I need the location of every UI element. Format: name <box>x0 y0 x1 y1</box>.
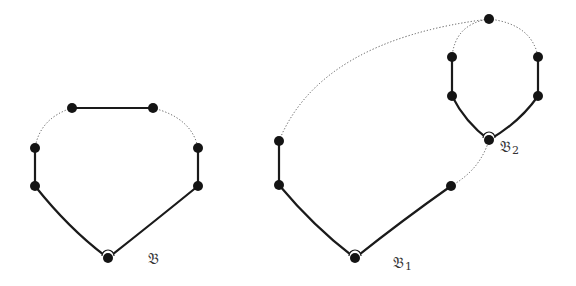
graph-label: 𝔅 <box>148 250 159 268</box>
solid-edge <box>108 186 198 258</box>
graph-label-subscript: 1 <box>405 260 412 273</box>
graph-node <box>67 103 77 113</box>
graph-node <box>30 143 40 153</box>
dotted-edge <box>279 19 489 141</box>
graph-node <box>350 253 360 263</box>
graph-node <box>447 52 457 62</box>
graph-node <box>447 91 457 101</box>
solid-edge <box>355 186 451 258</box>
dotted-edge <box>35 108 72 148</box>
graph-node <box>148 103 158 113</box>
dotted-edge <box>153 108 198 148</box>
graph-node <box>193 143 203 153</box>
solid-edge <box>279 185 355 258</box>
graph-node <box>274 180 284 190</box>
graph-label: 𝔅 <box>393 254 404 272</box>
graph-B: 𝔅 <box>30 103 203 268</box>
graphs-layer: 𝔅𝔅1𝔅2 <box>30 14 543 273</box>
dotted-edge <box>451 140 489 186</box>
graph-node <box>193 181 203 191</box>
graph-node <box>274 136 284 146</box>
graph-label: 𝔅 <box>500 138 511 156</box>
graph-B2: 𝔅2 <box>447 14 543 157</box>
solid-edge <box>35 186 108 258</box>
dotted-edge <box>489 19 538 57</box>
dotted-edge <box>452 19 489 57</box>
graph-node <box>533 91 543 101</box>
graph-diagram: 𝔅𝔅1𝔅2 <box>0 0 576 286</box>
graph-node <box>533 52 543 62</box>
solid-edge <box>452 96 489 140</box>
graph-node <box>446 181 456 191</box>
graph-label-subscript: 2 <box>512 144 519 157</box>
solid-edge <box>489 96 538 140</box>
graph-node <box>30 181 40 191</box>
graph-node <box>484 14 494 24</box>
graph-node <box>103 253 113 263</box>
graph-node <box>484 135 494 145</box>
